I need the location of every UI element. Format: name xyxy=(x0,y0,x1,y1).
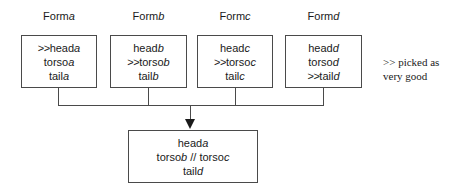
connector-drop-c xyxy=(235,88,236,106)
form-box-b-line-1-var: b xyxy=(158,42,164,54)
form-box-d-line-2-text: torso xyxy=(308,56,332,68)
form-box-d-line-3: >>taild xyxy=(307,69,339,83)
form-label-d: Formd xyxy=(285,10,362,23)
form-box-c-line-1-var: c xyxy=(244,42,250,54)
form-box-c: headc >>torsoc tailc xyxy=(197,35,273,88)
form-box-d-line-2-var: d xyxy=(333,56,339,68)
result-line-2-var2: c xyxy=(224,151,230,163)
form-box-c-line-3-text: tail xyxy=(225,70,239,82)
form-box-d-line-3-text: tail xyxy=(319,70,333,82)
result-line-2-text: torso xyxy=(157,151,181,163)
form-box-b-line-2: >>torsob xyxy=(127,55,169,69)
form-label-c-prefix: Form xyxy=(219,10,245,22)
form-box-b-line-2-text: torso xyxy=(139,56,163,68)
form-box-a-line-1-mark: >> xyxy=(38,42,50,54)
legend-line-1: >> picked as xyxy=(383,55,469,69)
result-line-2-separator: // xyxy=(187,151,199,163)
form-box-c-line-1: headc xyxy=(220,41,250,55)
form-box-a-line-2-var: a xyxy=(68,56,74,68)
form-label-a-var: a xyxy=(69,10,75,22)
form-box-b-line-2-var: b xyxy=(164,56,170,68)
connector-merge-bus xyxy=(58,105,324,106)
form-box-d-line-1-text: head xyxy=(308,42,332,54)
result-box: heada torsob // torsoc taild xyxy=(128,130,258,183)
result-line-3-text: tail xyxy=(183,165,197,177)
result-line-2-text2: torso xyxy=(199,151,223,163)
form-label-a-prefix: Form xyxy=(43,10,69,22)
form-combination-diagram: Forma Formb Formc Formd >>heada torsoa t… xyxy=(0,0,473,192)
form-box-c-line-3-var: c xyxy=(239,70,245,82)
form-box-a-line-3-var: a xyxy=(63,70,69,82)
form-box-d: headd torsod >>taild xyxy=(285,35,362,88)
form-label-d-var: d xyxy=(333,10,339,22)
form-box-d-line-1-var: d xyxy=(333,42,339,54)
connector-drop-d xyxy=(323,88,324,106)
form-box-d-line-3-var: d xyxy=(333,70,339,82)
form-box-b: headb >>torsob tailb xyxy=(110,35,187,88)
form-box-b-line-1-text: head xyxy=(133,42,157,54)
form-box-c-line-2-text: torso xyxy=(226,56,250,68)
form-label-d-prefix: Form xyxy=(308,10,334,22)
form-box-b-line-1: headb xyxy=(133,41,164,55)
form-box-d-line-3-mark: >> xyxy=(307,70,319,82)
connector-drop-a xyxy=(58,88,59,106)
form-label-b-prefix: Form xyxy=(133,10,159,22)
form-box-a-line-1: >>heada xyxy=(38,41,80,55)
form-box-d-line-1: headd xyxy=(308,41,339,55)
form-label-b: Formb xyxy=(110,10,187,23)
form-box-a-line-2: torsoa xyxy=(44,55,75,69)
legend: >> picked as very good xyxy=(383,55,469,83)
form-box-b-line-3-var: b xyxy=(152,70,158,82)
result-line-1-var: a xyxy=(202,137,208,149)
form-box-b-line-3: tailb xyxy=(138,69,158,83)
form-box-d-line-2: torsod xyxy=(308,55,339,69)
result-line-3: taild xyxy=(183,164,203,178)
form-box-c-line-2-mark: >> xyxy=(214,56,226,68)
connector-drop-b xyxy=(148,88,149,106)
form-box-a-line-2-text: torso xyxy=(44,56,68,68)
form-box-c-line-2-var: c xyxy=(250,56,256,68)
form-box-a-line-3: taila xyxy=(49,69,69,83)
form-box-b-line-3-text: tail xyxy=(138,70,152,82)
form-box-c-line-1-text: head xyxy=(220,42,244,54)
form-box-a: >>heada torsoa taila xyxy=(21,35,97,88)
arrowhead-icon xyxy=(185,119,195,129)
form-box-c-line-3: tailc xyxy=(225,69,245,83)
result-line-2: torsob // torsoc xyxy=(157,150,230,164)
form-box-b-line-2-mark: >> xyxy=(127,56,139,68)
form-box-a-line-3-text: tail xyxy=(49,70,63,82)
form-label-a: Forma xyxy=(21,10,97,23)
form-label-c-var: c xyxy=(245,10,251,22)
form-label-b-var: b xyxy=(158,10,164,22)
result-line-1-text: head xyxy=(178,137,202,149)
result-line-3-var: d xyxy=(197,165,203,177)
form-label-c: Formc xyxy=(197,10,273,23)
form-box-c-line-2: >>torsoc xyxy=(214,55,256,69)
form-box-a-line-1-text: head xyxy=(50,42,74,54)
form-box-a-line-1-var: a xyxy=(74,42,80,54)
result-line-1: heada xyxy=(178,136,209,150)
legend-line-2: very good xyxy=(383,69,469,83)
